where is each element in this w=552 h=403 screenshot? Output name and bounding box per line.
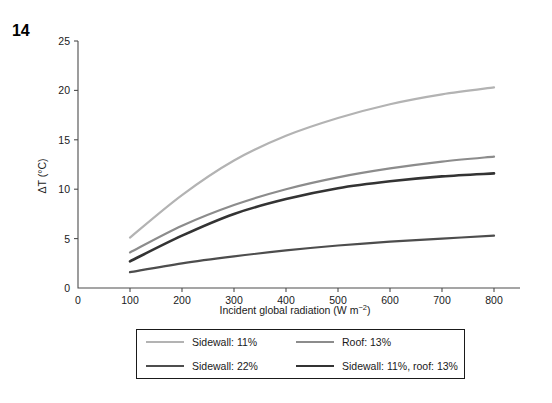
legend-item-sidewall-11: Sidewall: 11% [137, 337, 287, 348]
legend-item-sidewall-22: Sidewall: 22% [137, 361, 287, 372]
x-tick-label: 800 [485, 294, 503, 306]
legend: Sidewall: 11% Roof: 13% Sidewall: 22% Si… [136, 329, 465, 379]
y-tick-label: 20 [58, 84, 70, 96]
legend-swatch-roof-13 [296, 341, 334, 343]
legend-label-sidewall-11-roof-13: Sidewall: 11%, roof: 13% [342, 361, 458, 372]
legend-item-roof-13: Roof: 13% [287, 337, 466, 348]
x-tick-label: 600 [381, 294, 399, 306]
x-axis-title: Incident global radiation (W m−2) [220, 303, 371, 316]
legend-label-sidewall-11: Sidewall: 11% [192, 337, 257, 348]
axis-lines [78, 41, 520, 288]
axis-group [78, 41, 520, 288]
legend-label-roof-13: Roof: 13% [342, 337, 391, 348]
series-line [130, 236, 494, 273]
x-tick-label: 200 [173, 294, 191, 306]
legend-swatch-sidewall-11 [146, 341, 184, 343]
y-tick-label: 25 [58, 35, 70, 47]
y-tick-label: 10 [58, 183, 70, 195]
y-axis-title-group: ΔT (°C) [36, 159, 48, 194]
y-tick-label: 0 [64, 282, 70, 294]
legend-item-sidewall-11-roof-13: Sidewall: 11%, roof: 13% [287, 361, 466, 372]
series-group [130, 87, 494, 272]
legend-label-sidewall-22: Sidewall: 22% [192, 361, 258, 372]
legend-swatch-sidewall-11-roof-13 [296, 365, 334, 367]
x-axis-title-group: Incident global radiation (W m−2) [220, 303, 371, 316]
y-tick-label: 15 [58, 134, 70, 146]
y-tick-label: 5 [64, 233, 70, 245]
y-axis-title: ΔT (°C) [36, 159, 48, 194]
y-tick-group: 0510152025 [58, 35, 78, 294]
figure-container: 14 0510152025 0100200300400500600700800 … [0, 0, 552, 403]
legend-swatch-sidewall-22 [146, 365, 184, 367]
x-tick-label: 700 [433, 294, 451, 306]
legend-grid: Sidewall: 11% Roof: 13% Sidewall: 22% Si… [137, 330, 464, 378]
x-tick-label: 0 [75, 294, 81, 306]
x-tick-label: 100 [121, 294, 139, 306]
